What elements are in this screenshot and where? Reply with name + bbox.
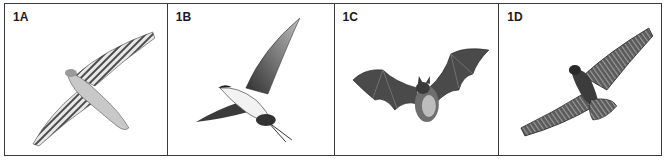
panel-1a: 1A	[5, 4, 168, 155]
eagle-illustration	[499, 4, 661, 155]
bat-illustration	[335, 4, 499, 155]
panel-1c: 1C	[335, 4, 500, 155]
figure-grid: 1A 1B	[4, 3, 662, 156]
panel-1b: 1B	[168, 4, 335, 155]
tern-illustration	[168, 4, 334, 155]
panel-1d: 1D	[499, 4, 661, 155]
hawk-illustration	[5, 4, 167, 155]
